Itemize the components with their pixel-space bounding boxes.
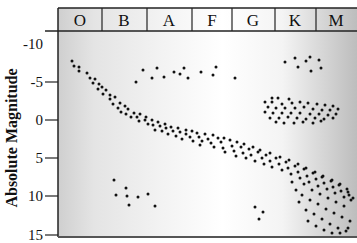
star-dot <box>278 163 281 166</box>
star-dot <box>179 73 182 76</box>
star-dot <box>284 61 287 64</box>
spectral-class-O: O <box>74 11 86 30</box>
star-dot <box>144 119 147 122</box>
star-dot <box>254 206 257 209</box>
star-dot <box>335 201 338 204</box>
star-dot <box>263 163 266 166</box>
star-dot <box>261 157 264 160</box>
star-dot <box>297 163 300 166</box>
star-dot <box>321 218 324 221</box>
star-dot <box>293 122 296 125</box>
star-dot <box>200 71 203 74</box>
star-dot <box>265 154 268 157</box>
star-dot <box>243 143 246 146</box>
star-dot <box>281 103 284 106</box>
star-dot <box>220 141 223 144</box>
star-dot <box>294 57 297 60</box>
star-dot <box>327 114 330 117</box>
star-dot <box>254 160 257 163</box>
star-dot <box>235 155 238 158</box>
star-dot <box>318 113 321 116</box>
y-tick-neg10: -10 <box>23 36 43 52</box>
star-dot <box>271 101 274 104</box>
star-dot <box>283 122 286 125</box>
star-dot <box>296 117 299 120</box>
star-dot <box>269 152 272 155</box>
star-dot <box>294 165 297 168</box>
star-dot <box>142 69 145 72</box>
star-dot <box>307 220 310 223</box>
star-dot <box>309 56 312 59</box>
star-dot <box>326 188 329 191</box>
star-dot <box>315 225 318 228</box>
star-dot <box>269 160 272 163</box>
star-dot <box>305 118 308 121</box>
star-dot <box>284 107 287 110</box>
star-dot <box>269 117 272 120</box>
star-dot <box>312 108 315 111</box>
star-dot <box>192 140 195 143</box>
star-dot <box>213 146 216 149</box>
star-dot <box>233 150 236 153</box>
star-dot <box>94 78 97 81</box>
star-dot <box>215 66 218 69</box>
star-dot <box>130 116 133 119</box>
star-dot <box>335 113 338 116</box>
star-dot <box>311 189 314 192</box>
spectral-class-M: M <box>328 11 343 30</box>
star-dot <box>217 137 220 140</box>
star-dot <box>147 193 150 196</box>
star-dot <box>333 212 336 215</box>
star-dot <box>291 181 294 184</box>
star-dot <box>92 82 95 85</box>
star-dot <box>314 171 317 174</box>
star-dot <box>177 127 180 130</box>
star-dot <box>314 117 317 120</box>
star-dot <box>157 121 160 124</box>
star-dot <box>236 141 239 144</box>
star-dot <box>154 129 157 132</box>
star-dot <box>303 106 306 109</box>
star-dot <box>317 203 320 206</box>
star-dot <box>281 169 284 172</box>
star-dot <box>337 227 340 230</box>
star-dot <box>343 196 346 199</box>
star-dot <box>297 66 300 69</box>
star-dot <box>199 144 202 147</box>
star-dot <box>295 189 298 192</box>
star-dot <box>187 77 190 80</box>
star-dot <box>271 97 274 100</box>
star-dot <box>135 81 138 84</box>
star-dot <box>340 190 343 193</box>
spectral-class-A: A <box>163 11 176 30</box>
star-dot <box>332 117 335 120</box>
star-dot <box>309 199 312 202</box>
star-dot <box>234 77 237 80</box>
star-dot <box>125 113 128 116</box>
star-dot <box>102 93 105 96</box>
star-dot <box>352 197 355 200</box>
star-dot <box>309 113 312 116</box>
star-dot <box>133 112 136 115</box>
star-dot <box>128 204 131 207</box>
y-tick-10: 10 <box>28 188 43 204</box>
star-dot <box>267 106 270 109</box>
star-dot <box>179 131 182 134</box>
star-dot <box>204 133 207 136</box>
star-dot <box>117 107 120 110</box>
star-dot <box>112 103 115 106</box>
star-dot <box>349 220 352 223</box>
star-dot <box>181 138 184 141</box>
star-dot <box>222 147 225 150</box>
star-dot <box>183 67 186 70</box>
star-dot <box>324 104 327 107</box>
star-dot <box>124 105 127 108</box>
star-dot <box>345 230 348 233</box>
star-dot <box>264 111 267 114</box>
star-dot <box>323 182 326 185</box>
star-dot <box>151 77 154 80</box>
star-dot <box>288 159 291 162</box>
star-dot <box>231 145 234 148</box>
star-dot <box>165 127 168 130</box>
star-dot <box>299 112 302 115</box>
